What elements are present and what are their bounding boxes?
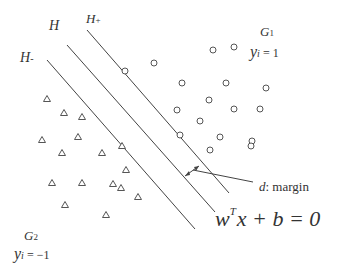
h-plus-line: [87, 30, 229, 193]
label-g2-y: yi = −1: [12, 245, 49, 263]
circle-point-icon: [151, 60, 157, 66]
triangle-point-icon: [79, 180, 86, 186]
circle-point-icon: [263, 85, 269, 91]
label-h-minus: H-: [19, 50, 33, 65]
circle-point-icon: [177, 132, 183, 138]
circle-point-icon: [231, 44, 237, 50]
triangle-point-icon: [75, 134, 82, 140]
label-margin: d: margin: [259, 179, 309, 194]
triangle-point-icon: [62, 202, 69, 208]
label-g1: G1: [260, 24, 274, 39]
margin-indicator: [185, 166, 253, 182]
svm-diagram: H+ H H- G1 yi = 1 G2 yi = −1 d: margin w…: [0, 0, 341, 279]
circle-point-icon: [223, 80, 229, 86]
triangle-point-icon: [110, 181, 117, 187]
triangle-point-icon: [44, 96, 51, 102]
circle-point-icon: [174, 107, 180, 113]
triangle-point-icon: [118, 185, 125, 191]
circle-point-icon: [217, 134, 223, 140]
circle-point-icon: [179, 80, 185, 86]
h-line: [67, 45, 215, 212]
triangle-point-icon: [135, 194, 142, 200]
label-g1-y: yi = 1: [248, 43, 279, 61]
triangle-point-icon: [59, 150, 66, 156]
triangle-point-icon: [123, 167, 130, 173]
hyperplane-equation: wTx + b = 0: [215, 205, 320, 231]
circle-point-icon: [197, 118, 203, 124]
circle-point-icon: [248, 143, 254, 149]
circle-point-icon: [206, 97, 212, 103]
label-h: H: [48, 18, 60, 33]
triangle-point-icon: [39, 137, 46, 143]
label-h-plus: H+: [85, 11, 100, 26]
triangle-point-icon: [103, 212, 110, 218]
circle-point-icon: [231, 106, 237, 112]
circle-point-icon: [207, 147, 213, 153]
margin-arrowhead-bottom: [185, 171, 190, 176]
label-g2: G2: [24, 228, 38, 243]
class-g1-points: [122, 44, 269, 153]
circle-point-icon: [257, 106, 263, 112]
circle-point-icon: [210, 47, 216, 53]
class-g2-points: [39, 96, 142, 218]
circle-point-icon: [122, 68, 128, 74]
triangle-point-icon: [99, 150, 106, 156]
margin-leader-line: [193, 170, 253, 182]
triangle-point-icon: [79, 114, 86, 120]
triangle-point-icon: [61, 110, 68, 116]
triangle-point-icon: [49, 180, 56, 186]
